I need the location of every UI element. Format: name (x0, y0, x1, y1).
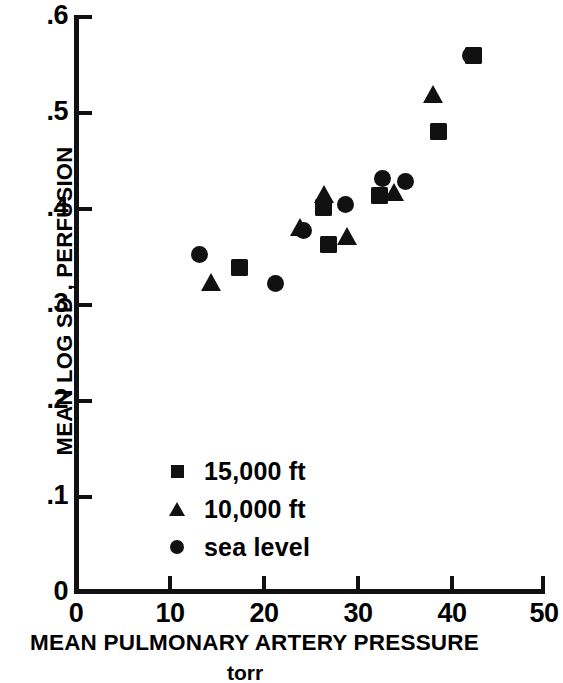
data-point-square (231, 259, 248, 276)
data-point-circle (191, 246, 208, 263)
legend-triangle-marker-icon (160, 496, 194, 522)
data-point-triangle (314, 185, 334, 203)
data-point-circle (374, 170, 391, 187)
legend-item-10000ft[interactable]: 10,000 ft (160, 490, 310, 528)
legend: 15,000 ft 10,000 ft sea level (160, 452, 310, 566)
data-point-circle (462, 47, 479, 64)
data-point-triangle (201, 273, 221, 291)
data-point-circle (267, 275, 284, 292)
legend-item-15000ft[interactable]: 15,000 ft (160, 452, 310, 490)
data-point-square (430, 123, 447, 140)
data-point-square (320, 236, 337, 253)
legend-circle-marker-icon (160, 534, 194, 560)
data-point-circle (337, 196, 354, 213)
data-point-triangle (337, 227, 357, 245)
legend-label-sea-level: sea level (194, 535, 310, 560)
legend-label-15000ft: 15,000 ft (194, 459, 306, 484)
data-point-circle (295, 222, 312, 239)
legend-item-sea-level[interactable]: sea level (160, 528, 310, 566)
data-point-triangle (423, 85, 443, 103)
data-point-circle (397, 173, 414, 190)
legend-square-marker-icon (160, 458, 194, 484)
legend-label-10000ft: 10,000 ft (194, 497, 306, 522)
